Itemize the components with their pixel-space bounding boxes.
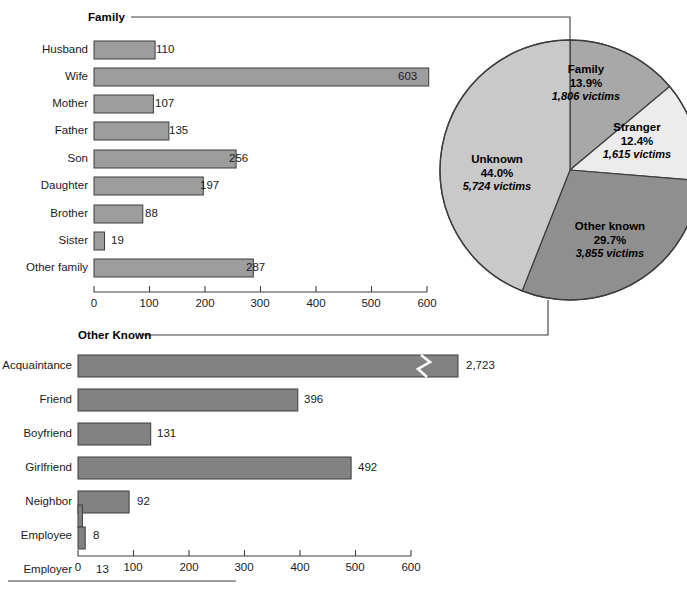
value-label-other-family: 287 [246, 261, 265, 273]
value-label-daughter: 197 [200, 179, 219, 191]
bar-acquaintance [78, 355, 458, 377]
bar-employer [78, 527, 85, 549]
xtick2-label-100: 100 [113, 561, 153, 573]
other-known-x-axis [78, 550, 411, 556]
family-bar-group [94, 41, 429, 277]
xtick-label-400: 400 [296, 297, 336, 309]
cat-label-other-family: Other family [0, 261, 88, 273]
pie-label-unknown-percent: 44.0% [447, 166, 547, 180]
xtick-label-600: 600 [407, 297, 447, 309]
family-x-axis [94, 286, 427, 292]
cat-label-girlfriend: Girlfriend [0, 461, 72, 473]
value-label-sister: 19 [111, 234, 124, 246]
pie-label-stranger: Stranger 12.4% 1,615 victims [591, 120, 683, 161]
cat-label-boyfriend: Boyfriend [0, 427, 72, 439]
pie-label-family-name: Family [541, 62, 631, 76]
pie-label-other-known-name: Other known [562, 219, 658, 233]
pie-label-other-known-percent: 29.7% [562, 233, 658, 247]
bar-friend [78, 389, 298, 411]
xtick-label-100: 100 [129, 297, 169, 309]
xtick2-label-500: 500 [335, 561, 375, 573]
cat-label-husband: Husband [0, 43, 88, 55]
value-label-wife: 603 [398, 70, 417, 82]
value-label-neighbor: 92 [137, 495, 150, 507]
bar-employee [78, 505, 82, 527]
bar-husband [94, 41, 155, 59]
cat-label-friend: Friend [0, 393, 72, 405]
xtick2-label-0: 0 [58, 561, 98, 573]
value-label-employee: 8 [93, 529, 99, 541]
bar-daughter [94, 177, 203, 195]
value-label-son: 256 [229, 152, 248, 164]
pie-label-other-known: Other known 29.7% 3,855 victims [562, 219, 658, 260]
pie-label-family-percent: 13.9% [541, 76, 631, 90]
cat-label-sister: Sister [0, 234, 88, 246]
bar-mother [94, 95, 153, 113]
cat-label-son: Son [0, 152, 88, 164]
xtick-label-0: 0 [74, 297, 114, 309]
value-label-friend: 396 [304, 393, 323, 405]
pie-label-unknown-victims: 5,724 victims [447, 180, 547, 193]
bar-boyfriend [78, 423, 151, 445]
xtick2-label-600: 600 [391, 561, 431, 573]
victim-relationship-figure: Family Other Known Husband Wife Mother F… [0, 0, 687, 590]
xtick2-label-200: 200 [169, 561, 209, 573]
xtick-label-200: 200 [185, 297, 225, 309]
pie-label-other-known-victims: 3,855 victims [562, 247, 658, 260]
cat-label-wife: Wife [0, 70, 88, 82]
pie-label-family: Family 13.9% 1,806 victims [541, 62, 631, 103]
xtick2-label-300: 300 [224, 561, 264, 573]
xtick-label-300: 300 [240, 297, 280, 309]
xtick2-label-400: 400 [280, 561, 320, 573]
cat-label-neighbor: Neighbor [0, 495, 72, 507]
pie-label-unknown: Unknown 44.0% 5,724 victims [447, 152, 547, 193]
value-label-mother: 107 [155, 97, 174, 109]
cat-label-acquaintance: Acquaintance [0, 359, 72, 371]
value-label-husband: 110 [156, 43, 174, 55]
bar-girlfriend [78, 457, 351, 479]
cat-label-brother: Brother [0, 207, 88, 219]
family-panel-title: Family [88, 11, 125, 23]
xtick-label-500: 500 [351, 297, 391, 309]
value-label-boyfriend: 131 [157, 427, 176, 439]
pie-label-unknown-name: Unknown [447, 152, 547, 166]
family-connector-line [131, 17, 570, 40]
bar-brother [94, 205, 143, 223]
bar-father [94, 122, 169, 140]
bar-wife [94, 68, 429, 86]
bar-son [94, 150, 236, 168]
cat-label-mother: Mother [0, 97, 88, 109]
pie-label-stranger-victims: 1,615 victims [591, 148, 683, 161]
other-known-panel-title: Other Known [78, 329, 151, 341]
cat-label-employee: Employee [0, 529, 72, 541]
value-label-girlfriend: 492 [358, 461, 377, 473]
cat-label-father: Father [0, 124, 88, 136]
bar-other-family [94, 259, 253, 277]
other-known-bar-group [78, 355, 458, 549]
value-label-acquaintance: 2,723 [466, 359, 495, 371]
bar-neighbor [78, 491, 129, 513]
value-label-father: 135 [169, 124, 188, 136]
cat-label-daughter: Daughter [0, 179, 88, 191]
pie-label-family-victims: 1,806 victims [541, 90, 631, 103]
bar-sister [94, 232, 105, 250]
value-label-brother: 88 [145, 207, 158, 219]
pie-label-stranger-name: Stranger [591, 120, 683, 134]
pie-label-stranger-percent: 12.4% [591, 134, 683, 148]
